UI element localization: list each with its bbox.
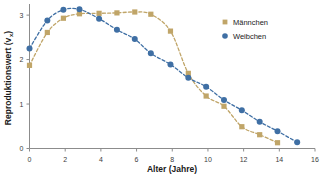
data-point-weibchen: [203, 84, 209, 90]
y-tick-label: 3: [20, 12, 24, 19]
chart-legend: MännchenWeibchen: [222, 18, 268, 41]
data-point-maennchen: [61, 16, 66, 21]
data-point-maennchen: [275, 140, 280, 145]
data-point-maennchen: [27, 63, 32, 68]
y-axis-title-paren: ): [3, 31, 13, 34]
data-point-weibchen: [114, 27, 120, 33]
y-axis-title-group: Reproduktionswert (v x): [3, 31, 14, 125]
y-tick-label: 2: [20, 56, 24, 63]
x-tick-label: 4: [99, 156, 103, 163]
data-point-weibchen: [275, 128, 281, 134]
data-point-weibchen: [221, 97, 227, 103]
data-point-maennchen: [96, 11, 101, 16]
y-axis-ticks: 0123: [20, 12, 30, 152]
data-point-maennchen: [148, 12, 153, 17]
data-point-weibchen: [185, 75, 191, 81]
data-point-weibchen: [294, 139, 300, 145]
x-tick-label: 14: [275, 156, 283, 163]
x-tick-label: 8: [170, 156, 174, 163]
data-point-maennchen: [239, 124, 244, 129]
data-point-weibchen: [60, 7, 66, 13]
x-tick-label: 12: [240, 156, 248, 163]
legend-label: Weibchen: [233, 32, 266, 41]
data-point-maennchen: [221, 104, 226, 109]
x-tick-label: 10: [204, 156, 212, 163]
x-tick-label: 2: [63, 156, 67, 163]
data-point-weibchen: [257, 119, 263, 125]
data-point-maennchen: [168, 29, 173, 34]
legend-label: Männchen: [233, 18, 268, 27]
data-point-weibchen: [167, 61, 173, 67]
y-tick-label: 0: [20, 145, 24, 152]
data-point-weibchen: [76, 6, 82, 12]
x-tick-label: 0: [28, 156, 32, 163]
data-point-weibchen: [96, 16, 102, 22]
data-point-maennchen: [45, 30, 50, 35]
x-tick-label: 6: [135, 156, 139, 163]
data-point-maennchen: [132, 9, 137, 14]
data-point-maennchen: [114, 10, 119, 15]
x-axis-title: Alter (Jahre): [147, 164, 197, 174]
chart-canvas: 0246810121416 0123 Alter (Jahre) Reprodu…: [0, 0, 326, 178]
reproductive-value-chart: 0246810121416 0123 Alter (Jahre) Reprodu…: [0, 0, 326, 178]
legend-marker-square: [223, 20, 228, 25]
y-axis-title: Reproduktionswert (v x): [3, 31, 14, 125]
y-tick-label: 1: [20, 101, 24, 108]
series-data-markers: [27, 6, 301, 145]
data-point-maennchen: [204, 93, 209, 98]
y-axis-title-main: Reproduktionswert (v: [3, 37, 13, 125]
x-tick-label: 16: [311, 156, 319, 163]
axes-group: [30, 4, 316, 149]
x-axis-ticks: 0246810121416: [28, 149, 319, 163]
data-point-weibchen: [44, 17, 50, 23]
data-point-weibchen: [27, 45, 33, 51]
data-point-maennchen: [257, 132, 262, 137]
data-point-weibchen: [148, 50, 154, 56]
legend-marker-circle: [222, 33, 228, 39]
data-point-weibchen: [239, 107, 245, 113]
data-point-weibchen: [132, 36, 138, 42]
